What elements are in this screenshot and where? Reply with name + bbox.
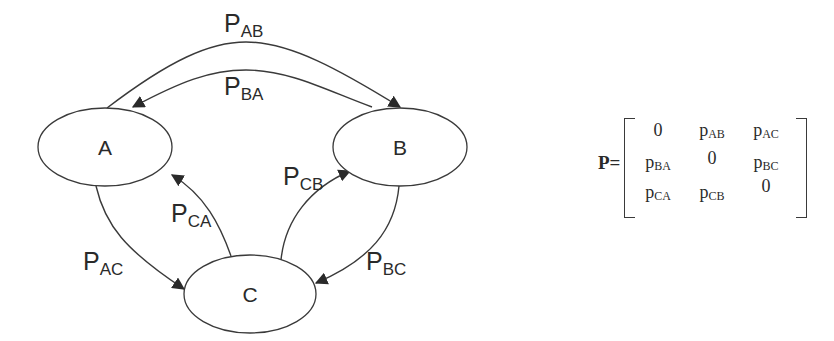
matrix-cell-r1c1: 0 (632, 120, 684, 142)
right-bracket (796, 118, 807, 218)
edge-label-ba: PBA (224, 72, 264, 104)
state-diagram: A B C PAB PBA PAC PCA PCB PBC (0, 0, 834, 341)
node-c: C (184, 255, 316, 333)
edge-label-ac: PAC (83, 247, 123, 279)
node-a: A (38, 108, 172, 186)
matrix-cell-r2c1: pBA (632, 152, 684, 174)
edge-label-ca: PCA (171, 199, 212, 231)
matrix-cell-r1c3: pAC (740, 120, 792, 142)
matrix-cell-r2c3: pBC (740, 152, 792, 174)
matrix-cell-r1c2: pAB (686, 120, 738, 142)
node-b: B (333, 108, 467, 186)
matrix-cell-r3c3: 0 (740, 176, 792, 198)
edge-label-bc: PBC (366, 247, 406, 279)
matrix-cell-r3c1: pCA (632, 182, 684, 204)
node-b-label: B (393, 136, 407, 159)
matrix-cell-r3c2: pCB (686, 182, 738, 204)
node-a-label: A (98, 136, 112, 159)
matrix-cell-r2c2: 0 (686, 148, 738, 170)
matrix-label: P= (598, 152, 620, 174)
edge-label-cb: PCB (283, 162, 323, 194)
edge-label-ab: PAB (224, 9, 263, 41)
node-c-label: C (242, 283, 257, 306)
